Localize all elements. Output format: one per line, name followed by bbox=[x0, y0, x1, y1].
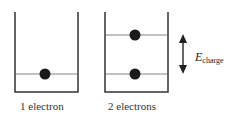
box-2-caption: 2 electrons bbox=[108, 100, 156, 112]
electron-icon bbox=[40, 69, 51, 80]
box-1-caption: 1 electron bbox=[20, 100, 64, 112]
electron-icon bbox=[130, 69, 141, 80]
box-1-walls bbox=[15, 12, 78, 92]
box-2-walls bbox=[105, 12, 168, 92]
double-arrow-icon bbox=[179, 34, 187, 74]
electron-icon bbox=[130, 30, 141, 41]
box-1 bbox=[15, 12, 78, 92]
energy-charge-label: Echarge bbox=[195, 50, 224, 65]
energy-subscript: charge bbox=[202, 56, 223, 65]
box-2 bbox=[105, 12, 168, 92]
